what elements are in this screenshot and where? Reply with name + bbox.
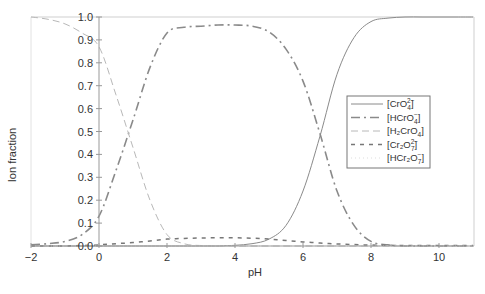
y-tick-label: 0.6 [78, 103, 93, 115]
y-axis-title: Ion fraction [6, 128, 18, 182]
x-tick-label: 8 [368, 251, 374, 263]
y-tick-label: 0.7 [78, 80, 93, 92]
y-tick-label: 0.8 [78, 57, 93, 69]
y-tick-label: 0.3 [78, 171, 93, 183]
y-tick-label: 0.2 [78, 194, 93, 206]
x-tick-label: 4 [232, 251, 238, 263]
legend-label: [Cr₂O2−7] [387, 138, 418, 152]
y-tick-label: 0.4 [78, 148, 93, 160]
x-tick-label: 0 [96, 251, 102, 263]
y-tick-label: 0.1 [78, 217, 93, 229]
legend: [CrO2−4][HCrO−4][H₂CrO4][Cr₂O2−7][HCr₂O−… [347, 96, 430, 168]
series-line-3 [31, 238, 473, 246]
x-tick-label: 6 [300, 251, 306, 263]
legend-label: [HCr₂O−7] [387, 151, 424, 165]
x-tick-label: 2 [164, 251, 170, 263]
y-tick-label: 1.0 [78, 11, 93, 23]
legend-label: [CrO2−4] [387, 97, 415, 111]
x-tick-label: 10 [433, 251, 445, 263]
legend-label: [HCrO−4] [387, 111, 420, 125]
x-axis-title: pH [248, 266, 262, 278]
y-tick-label: 0.5 [78, 126, 93, 138]
y-tick-label: 0.9 [78, 34, 93, 46]
chart: 0.00.10.20.30.40.50.60.70.80.91.0−202468… [0, 0, 485, 294]
y-tick-label: 0.0 [78, 240, 93, 252]
x-tick-label: −2 [25, 251, 38, 263]
